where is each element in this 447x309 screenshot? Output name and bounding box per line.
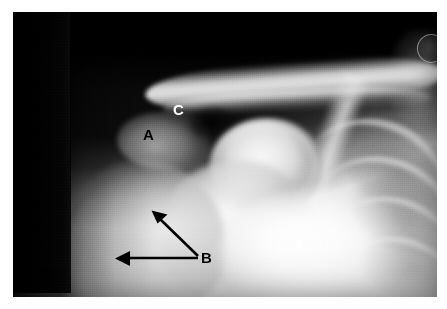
xray-image [13,12,437,297]
radiograph-page: A C B [0,0,447,309]
annotation-label-b: B [201,250,212,265]
left-edge-falloff [13,12,437,297]
annotation-label-a: A [143,127,154,142]
annotation-label-c: C [173,102,184,117]
